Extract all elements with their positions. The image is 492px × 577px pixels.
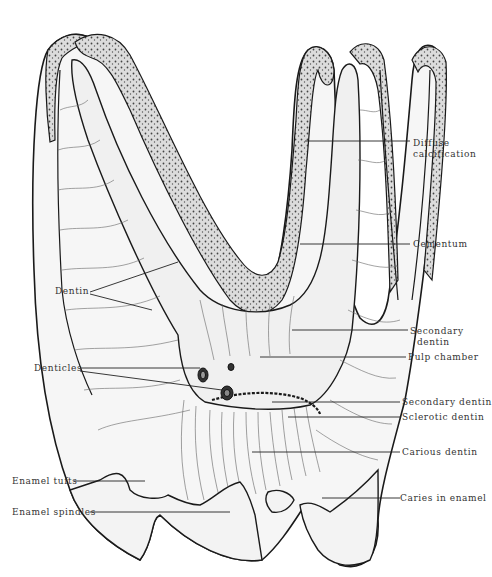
label-denticles: Denticles (34, 363, 82, 374)
label-secondary-dentin-upper: Secondary dentin (410, 326, 464, 348)
label-caries-in-enamel: Caries in enamel (400, 493, 487, 504)
label-cementum: Cementum (413, 239, 468, 250)
label-enamel-spindles: Enamel spindles (12, 507, 96, 518)
label-enamel-tufts: Enamel tufts (12, 476, 78, 487)
label-carious-dentin: Carious dentin (402, 447, 478, 458)
tooth-diagram: Dentin Denticles Enamel tufts Enamel spi… (0, 0, 492, 577)
label-pulp-chamber: Pulp chamber (408, 352, 479, 363)
label-diffuse-calcification: Diffuse calcification (413, 138, 476, 160)
label-dentin: Dentin (55, 286, 89, 297)
label-sclerotic-dentin: Sclerotic dentin (402, 412, 484, 423)
label-secondary-dentin-lower: Secondary dentin (402, 397, 492, 408)
